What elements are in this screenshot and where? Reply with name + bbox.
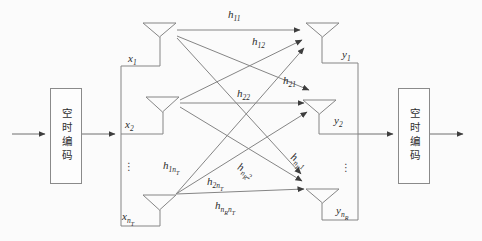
channel-label-h1nT: h1nT: [163, 160, 179, 173]
channel-tx1-rx3: [177, 38, 301, 174]
space-time-decoder-box: 空时编码: [398, 88, 430, 184]
rx-signal-label-y1: y1: [342, 49, 351, 62]
rx-antenna-1: [306, 23, 339, 37]
tx-antenna-1: [143, 23, 176, 37]
tx-signal-label-xnT: xnT: [122, 211, 134, 224]
rx-ellipsis: ⋮: [341, 163, 351, 173]
channel-label-h22: h22: [237, 88, 250, 101]
channel-label-h12: h12: [252, 36, 265, 49]
mimo-diagram: 空时编码 空时编码 x1 x2 xnT ⋮ y1 y2 ynR ⋮ h11 h1…: [0, 0, 482, 241]
tx-antenna-2: [146, 97, 179, 112]
rx-antenna-2: [303, 100, 336, 114]
channel-tx3-rx2: [176, 112, 307, 194]
tx-ellipsis: ⋮: [124, 162, 134, 172]
space-time-encoder-box: 空时编码: [50, 88, 82, 184]
tx-signal-label-x2: x2: [125, 119, 134, 132]
channel-label-h11: h11: [228, 9, 240, 22]
channel-label-h21: h21: [283, 75, 296, 88]
encoder-label: 空时编码: [59, 108, 74, 164]
tx-signal-label-x1: x1: [128, 53, 137, 66]
decoder-label: 空时编码: [407, 108, 422, 164]
rx-antenna-3: [306, 189, 339, 203]
channel-tx3-rx3: [176, 189, 304, 194]
channel-label-hnRnT: hnRnT: [215, 200, 235, 213]
rx-signal-label-y2: y2: [334, 115, 343, 128]
rx-signal-label-ynR: ynR: [336, 205, 348, 218]
channel-label-h2nT: h2nT: [207, 176, 223, 189]
tx-antenna-3: [143, 195, 176, 210]
